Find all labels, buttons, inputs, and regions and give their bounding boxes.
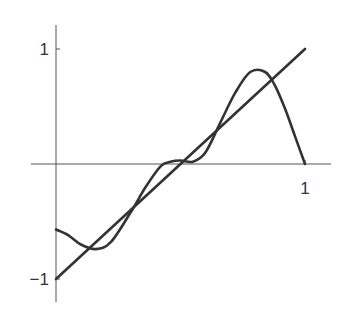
y-tick-label: −1 bbox=[30, 270, 49, 289]
y-tick-label: 1 bbox=[40, 40, 49, 59]
series-oscillating-curve bbox=[56, 70, 305, 249]
chart: 11−1 bbox=[0, 0, 342, 310]
x-tick-label: 1 bbox=[300, 179, 309, 198]
